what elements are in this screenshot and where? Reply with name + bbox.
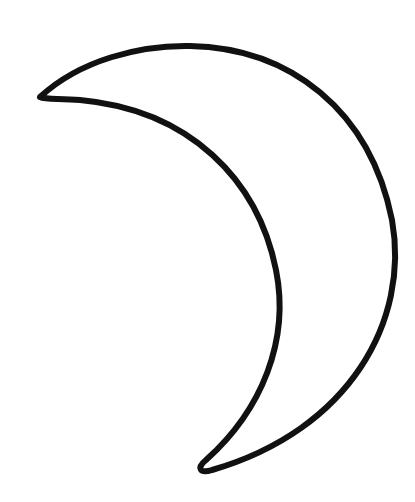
crescent-moon-icon — [0, 0, 415, 502]
crescent-moon-outline — [40, 46, 395, 471]
crescent-moon-canvas — [0, 0, 415, 502]
